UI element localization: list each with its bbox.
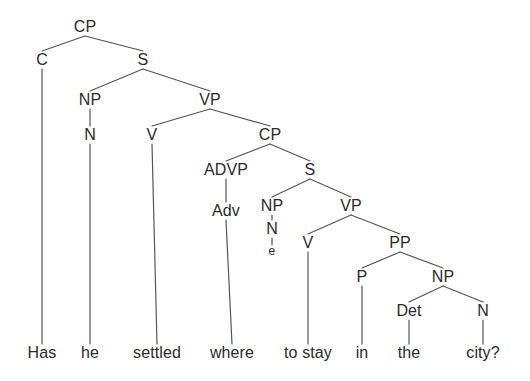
tree-terminal-w5: to stay — [284, 345, 332, 361]
tree-edge — [152, 109, 210, 126]
tree-node-n3: N — [477, 303, 489, 319]
tree-edge — [409, 286, 443, 302]
tree-edge — [351, 215, 400, 234]
tree-node-vp1: VP — [199, 92, 221, 108]
tree-node-s2: S — [305, 162, 316, 178]
tree-node-cp1: CP — [74, 19, 96, 35]
tree-node-n1: N — [84, 127, 96, 143]
tree-node-vp2: VP — [340, 198, 362, 214]
syntax-tree-diagram: CPCSNPVPNVCPADVPSAdvNPVPNVPPePNPDetNHash… — [0, 0, 530, 381]
tree-edge — [270, 144, 310, 161]
tree-node-det1: Det — [396, 303, 421, 319]
tree-edge — [272, 179, 310, 197]
tree-terminal-w3: settled — [133, 345, 181, 361]
tree-node-advp1: ADVP — [204, 162, 248, 178]
tree-node-s1: S — [138, 52, 149, 68]
tree-edge — [308, 215, 351, 234]
tree-node-np3: NP — [432, 269, 454, 285]
tree-node-c1: C — [36, 52, 48, 68]
tree-node-v2: V — [303, 235, 314, 251]
tree-node-p1: P — [357, 269, 368, 285]
tree-edge — [443, 286, 483, 302]
tree-edge — [310, 179, 351, 197]
tree-terminal-w4: where — [210, 345, 254, 361]
tree-node-cp2: CP — [259, 127, 281, 143]
tree-edge — [400, 252, 443, 268]
tree-terminal-w1: Has — [28, 345, 57, 361]
tree-edge — [152, 144, 157, 344]
tree-node-np1: NP — [79, 92, 101, 108]
tree-edge — [226, 144, 270, 161]
tree-terminal-w8: city? — [466, 345, 499, 361]
tree-edge — [362, 252, 400, 268]
tree-edges-layer — [0, 0, 530, 381]
tree-node-pp1: PP — [389, 235, 411, 251]
tree-node-n2: N — [266, 221, 278, 237]
tree-terminal-w6: in — [356, 345, 369, 361]
tree-edge — [90, 69, 143, 91]
tree-terminal-w2: he — [81, 345, 99, 361]
tree-edge — [226, 220, 232, 344]
tree-edge — [143, 69, 210, 91]
tree-node-v1: V — [147, 127, 158, 143]
tree-terminal-w7: the — [398, 345, 421, 361]
tree-edge — [210, 109, 270, 126]
tree-node-adv1: Adv — [212, 203, 240, 219]
tree-empty-category-e1: e — [269, 245, 276, 257]
tree-edge — [85, 36, 143, 51]
tree-node-np2: NP — [261, 198, 283, 214]
tree-edge — [42, 36, 85, 51]
